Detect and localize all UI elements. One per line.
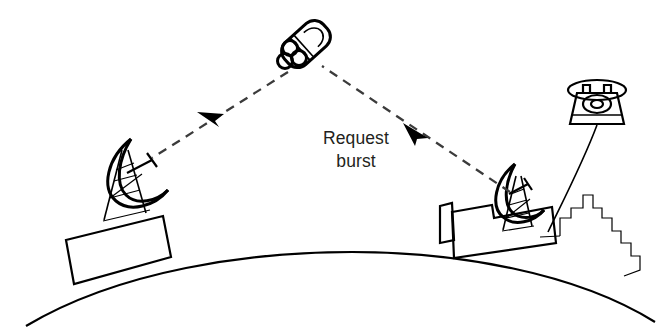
left-dish-reflector-rim (119, 139, 168, 201)
right-dish-feed-horn-tip (524, 178, 532, 190)
telephone-dial-outer (583, 95, 611, 113)
request-burst-label: Request burst (323, 128, 389, 171)
left-ground-station (66, 139, 171, 284)
request-burst-line-1: Request (323, 128, 389, 148)
telephone-cradle (583, 85, 611, 93)
request-burst-line-2: burst (336, 151, 375, 171)
telephone-dial-inner (591, 100, 603, 108)
diagram-canvas: Request burst (0, 0, 668, 332)
telephone (548, 80, 626, 232)
right-ground-station (440, 164, 556, 258)
telephone-handset (568, 80, 626, 100)
city-skyline-baseline (540, 236, 560, 237)
left-dish-feed-horn-tip (147, 153, 157, 167)
telephone-line (548, 125, 597, 232)
earth-surface-group (26, 252, 655, 326)
left-tower-leg-inner (128, 150, 146, 213)
city-skyline-outline (560, 195, 640, 276)
downlink-arrowhead-icon (197, 112, 224, 127)
satellite-nozzle-2 (292, 51, 307, 66)
right-tower-base-rail (502, 226, 534, 231)
link-downlink-to-left-station (152, 72, 288, 158)
satellite-diagram-svg: Request burst (0, 0, 668, 332)
earth-horizon-arc (26, 252, 655, 326)
left-tower-base-rail (103, 210, 150, 221)
